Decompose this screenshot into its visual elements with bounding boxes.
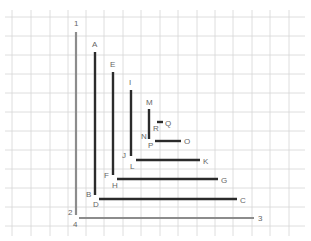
point-label-h: H bbox=[112, 181, 118, 190]
point-label-n: N bbox=[141, 132, 147, 141]
point-label-b: B bbox=[86, 190, 91, 199]
point-label-c: C bbox=[240, 196, 246, 205]
point-label-k: K bbox=[203, 157, 209, 166]
point-label-q: Q bbox=[165, 119, 171, 128]
point-label-m: M bbox=[146, 98, 153, 107]
point-label-d: D bbox=[93, 200, 99, 209]
point-label-r: R bbox=[153, 124, 159, 133]
point-label-j: J bbox=[122, 151, 126, 160]
point-label-o: O bbox=[184, 137, 190, 146]
point-label-e: E bbox=[110, 60, 115, 69]
point-label-g: G bbox=[221, 176, 227, 185]
point-label-1: 1 bbox=[74, 19, 79, 28]
point-label-f: F bbox=[104, 171, 109, 180]
point-label-2: 2 bbox=[68, 208, 73, 217]
point-label-l: L bbox=[130, 162, 135, 171]
point-label-4: 4 bbox=[73, 220, 78, 229]
point-label-i: I bbox=[129, 78, 131, 87]
point-label-p: P bbox=[148, 141, 153, 150]
nested-segments-diagram: 1234ABCDEFGHIJKLMNOPQR bbox=[0, 0, 311, 241]
point-label-a: A bbox=[92, 40, 98, 49]
point-label-3: 3 bbox=[258, 214, 263, 223]
